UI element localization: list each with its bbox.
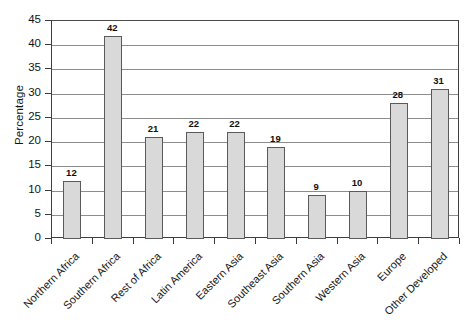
bar[interactable] [431,89,449,239]
bar[interactable] [63,181,81,239]
bar[interactable] [186,132,204,239]
bar[interactable] [145,137,163,239]
y-tick-label: 40 [8,38,41,50]
bar[interactable] [349,191,367,239]
bar-value-label: 19 [255,134,295,144]
x-tick-mark [214,238,215,244]
x-tick-mark [51,238,52,244]
x-tick-mark [92,238,93,244]
x-tick-mark [459,238,460,244]
y-tick-mark [45,20,51,21]
bar-value-label: 22 [174,119,214,129]
y-tick-label: 5 [8,208,41,220]
bar-value-label: 28 [378,90,418,100]
bar-value-label: 9 [296,182,336,192]
y-tick-label: 35 [8,62,41,74]
bar-value-label: 22 [215,119,255,129]
x-axis-label: Northern Africa [0,250,82,326]
bar[interactable] [267,147,285,239]
bar-value-label: 31 [419,76,459,86]
bar-value-label: 21 [133,124,173,134]
y-tick-mark [45,68,51,69]
y-tick-mark [45,44,51,45]
y-tick-label: 30 [8,87,41,99]
y-tick-label: 10 [8,184,41,196]
x-tick-mark [296,238,297,244]
x-tick-mark [377,238,378,244]
y-tick-mark [45,165,51,166]
x-tick-mark [418,238,419,244]
bar[interactable] [308,195,326,239]
x-tick-mark [133,238,134,244]
bar-chart: Percentage 454035302520151050 1242212222… [0,0,471,326]
bar[interactable] [390,103,408,239]
y-tick-mark [45,190,51,191]
plot-area [51,20,459,238]
bar[interactable] [104,36,122,239]
y-tick-label: 15 [8,159,41,171]
y-tick-label: 0 [8,232,41,244]
bar-value-label: 10 [337,178,377,188]
y-tick-label: 45 [8,14,41,26]
y-tick-mark [45,141,51,142]
bar[interactable] [227,132,245,239]
x-tick-mark [173,238,174,244]
bar-value-label: 42 [92,23,132,33]
y-tick-label: 25 [8,111,41,123]
x-tick-mark [255,238,256,244]
bar-value-label: 12 [51,168,91,178]
y-tick-mark [45,117,51,118]
y-tick-label: 20 [8,135,41,147]
y-tick-mark [45,93,51,94]
y-tick-mark [45,214,51,215]
x-tick-mark [337,238,338,244]
